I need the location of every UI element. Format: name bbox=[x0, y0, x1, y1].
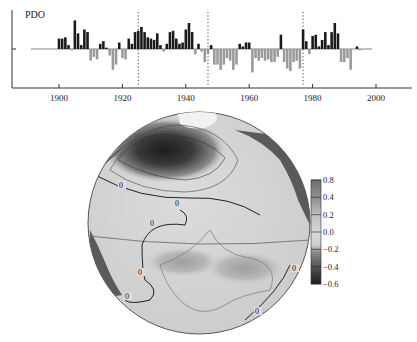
pdo-bar bbox=[219, 49, 222, 70]
globe-map: 0 0 0 0 0 0 0 bbox=[88, 100, 312, 334]
pdo-bar bbox=[175, 39, 178, 49]
pdo-bar bbox=[197, 44, 200, 49]
pdo-bar bbox=[229, 49, 232, 61]
pdo-bar bbox=[115, 49, 118, 65]
pdo-bar bbox=[235, 49, 238, 65]
pdo-bar bbox=[305, 41, 308, 49]
pdo-bar bbox=[349, 49, 352, 70]
pdo-bar bbox=[213, 49, 216, 65]
pdo-bar bbox=[257, 49, 260, 61]
pdo-bar bbox=[311, 36, 314, 49]
pdo-figure: 190019201940196019802000 PDO bbox=[0, 0, 417, 342]
pdo-bar bbox=[261, 49, 264, 58]
contour-label-zero: 0 bbox=[150, 219, 154, 228]
pdo-bar bbox=[156, 33, 159, 49]
colorbar-tick-label: −0.6 bbox=[323, 279, 338, 289]
pdo-bar bbox=[356, 46, 359, 49]
pdo-bar bbox=[318, 46, 321, 49]
pdo-bar bbox=[321, 40, 324, 49]
colorbar-tick-label: −0.4 bbox=[323, 262, 339, 272]
pdo-bar bbox=[248, 43, 251, 50]
pdo-bar-chart: 190019201940196019802000 PDO bbox=[12, 9, 412, 103]
contour-label-zero: 0 bbox=[138, 268, 142, 277]
x-axis-tick-label: 1900 bbox=[50, 93, 69, 103]
x-axis-tick-label: 1940 bbox=[177, 93, 196, 103]
pdo-bar bbox=[245, 43, 248, 50]
pdo-bar bbox=[74, 20, 77, 49]
pdo-bar bbox=[137, 31, 140, 49]
pdo-bar bbox=[308, 49, 311, 54]
pdo-bar bbox=[289, 49, 292, 71]
pdo-bar bbox=[343, 49, 346, 62]
x-axis-tick-label: 1920 bbox=[113, 93, 132, 103]
pdo-bar bbox=[178, 44, 181, 49]
pdo-bar bbox=[238, 44, 241, 49]
pdo-bar bbox=[77, 33, 80, 49]
colorbar-tick-label: −0.2 bbox=[323, 244, 338, 254]
pdo-bar bbox=[134, 32, 137, 49]
pdo-bar bbox=[181, 43, 184, 50]
pdo-bar bbox=[61, 39, 64, 49]
pdo-bar bbox=[324, 32, 327, 49]
pdo-bar bbox=[159, 45, 162, 49]
pdo-bar bbox=[162, 49, 165, 52]
pdo-bar bbox=[80, 45, 83, 49]
pdo-bar bbox=[242, 46, 245, 49]
x-axis-ticks: 190019201940196019802000 bbox=[50, 84, 386, 103]
pdo-bar bbox=[210, 45, 213, 49]
pdo-bar bbox=[295, 49, 298, 61]
cold-anomaly-north-pacific bbox=[103, 117, 227, 183]
pdo-bar bbox=[340, 49, 343, 62]
pdo-bar bbox=[96, 49, 99, 59]
colorbar: 0.80.40.20.0−0.2−0.4−0.6 bbox=[311, 175, 339, 289]
pdo-bar bbox=[185, 30, 188, 50]
colorbar-tick-label: 0.4 bbox=[323, 192, 334, 202]
contour-label-zero: 0 bbox=[255, 307, 259, 316]
pdo-bar bbox=[359, 49, 362, 50]
pdo-bar bbox=[276, 49, 279, 57]
pdo-bar bbox=[314, 35, 317, 49]
pdo-bar bbox=[251, 49, 254, 72]
warm-anomaly-tropical-east bbox=[203, 250, 287, 286]
pdo-bar bbox=[283, 49, 286, 62]
pdo-bar bbox=[93, 49, 96, 57]
pdo-bar bbox=[124, 49, 127, 59]
pdo-bar bbox=[146, 37, 149, 49]
pdo-bar bbox=[112, 49, 115, 70]
pdo-bar bbox=[273, 49, 276, 62]
pdo-bar bbox=[286, 49, 289, 69]
pdo-bar bbox=[118, 43, 121, 50]
pdo-bar bbox=[89, 49, 92, 61]
pdo-bar bbox=[58, 39, 61, 49]
pdo-bar bbox=[140, 27, 143, 49]
pdo-bar bbox=[105, 48, 108, 49]
pdo-bar bbox=[267, 49, 270, 59]
pdo-bar bbox=[223, 49, 226, 65]
x-axis-tick-label: 1960 bbox=[240, 93, 259, 103]
pdo-bar bbox=[150, 39, 153, 49]
pdo-bar bbox=[153, 40, 156, 49]
pdo-bar bbox=[280, 35, 283, 49]
pdo-bar bbox=[226, 49, 229, 58]
pdo-bar bbox=[346, 49, 349, 58]
pdo-bar bbox=[200, 49, 203, 52]
pdo-bar bbox=[70, 49, 73, 50]
pdo-bar bbox=[207, 49, 210, 54]
colorbar-tick-label: 0.8 bbox=[323, 175, 334, 185]
x-axis-tick-label: 1980 bbox=[304, 93, 323, 103]
pdo-bar bbox=[127, 39, 130, 49]
pdo-bar bbox=[337, 33, 340, 49]
contour-label-zero: 0 bbox=[125, 292, 129, 301]
pdo-bar bbox=[83, 30, 86, 50]
colorbar-tick-label: 0.0 bbox=[323, 227, 334, 237]
pdo-bar bbox=[216, 49, 219, 65]
pdo-bar bbox=[99, 44, 102, 49]
pdo-bar bbox=[264, 49, 267, 61]
pdo-bar bbox=[194, 49, 197, 54]
pdo-bar bbox=[327, 45, 330, 49]
pdo-bar bbox=[232, 49, 235, 70]
pdo-bar bbox=[334, 23, 337, 49]
pdo-bar bbox=[188, 23, 191, 49]
pdo-bar bbox=[166, 44, 169, 49]
pdo-bar bbox=[169, 32, 172, 49]
